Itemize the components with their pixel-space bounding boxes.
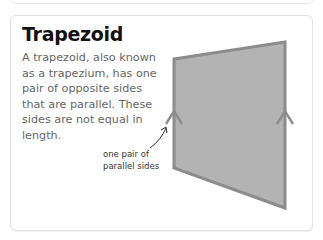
trapezoid-shape: [174, 42, 285, 208]
annotation-label: one pair of parallel sides: [103, 148, 159, 172]
annotation-line-1: one pair of: [103, 148, 159, 160]
annotation-line-2: parallel sides: [103, 160, 159, 172]
annotation-arrow-icon: [150, 128, 166, 148]
trapezoid-diagram: [0, 0, 323, 240]
